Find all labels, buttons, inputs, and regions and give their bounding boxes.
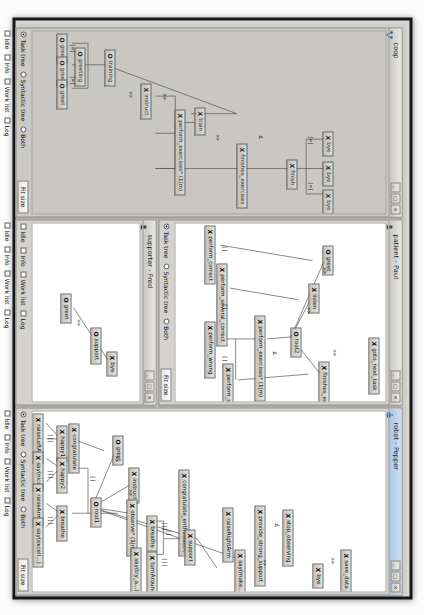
titlebar-supporter-fred[interactable]: supporter - Fred _ □ × — [142, 220, 155, 404]
tree-node[interactable]: O greet — [60, 293, 71, 323]
radio-syntactic-tree[interactable]: Syntactic tree — [163, 263, 170, 313]
radio-task-tree[interactable]: Task tree — [163, 223, 170, 258]
radio-both[interactable]: Both — [163, 318, 170, 340]
tree-node[interactable]: X say(try_a...) — [130, 547, 141, 592]
minimize-button[interactable]: _ — [144, 370, 154, 380]
checkbox-idle[interactable]: Idle — [4, 410, 11, 429]
tree-node[interactable]: X finishes_exercises — [236, 143, 247, 208]
close-button[interactable]: × — [144, 392, 154, 402]
tree-node[interactable]: X perform_exercises* (1|m) — [174, 109, 185, 195]
tree-node[interactable]: X turnAround — [146, 551, 157, 592]
radio-both[interactable]: Both — [20, 506, 27, 528]
tree-node[interactable]: X congratulate — [68, 423, 79, 473]
checkbox-info[interactable]: Info — [4, 54, 11, 73]
titlebar-robot-pepper[interactable]: robot - Pepper _ □ × — [388, 408, 401, 594]
tree-node[interactable]: X perform_wrong — [204, 321, 215, 378]
tree-node[interactable]: X perform_several_d... — [222, 363, 233, 402]
maximize-button[interactable]: □ — [390, 571, 400, 581]
radio-syntactic-tree[interactable]: Syntactic tree — [20, 71, 27, 121]
panel-bottom-bar-patient-paul[interactable]: Task tree Syntactic tree Both Fit size — [159, 220, 173, 404]
tree-node[interactable]: O root2 — [290, 327, 301, 357]
checkbox-idle[interactable]: Idle — [4, 222, 11, 241]
panel-supporter-fred[interactable]: supporter - Fred _ □ × O — [15, 219, 156, 405]
window-controls[interactable]: _ □ × — [390, 370, 400, 402]
checkbox-work-list[interactable]: Work list — [4, 78, 11, 112]
checkbox-log[interactable]: Log — [20, 310, 27, 329]
window-controls[interactable]: _ □ × — [144, 370, 154, 402]
minimize-button[interactable]: _ — [390, 370, 400, 380]
fit-size-button[interactable]: Fit size — [18, 558, 29, 591]
checkbox-log[interactable]: Log — [4, 497, 11, 516]
tree-node[interactable]: X train — [194, 107, 205, 135]
tree-node[interactable]: X bye — [322, 189, 333, 214]
tree-node[interactable]: X happy1 — [56, 425, 67, 461]
tree-node[interactable]: X bye — [106, 351, 117, 376]
checkbox-idle[interactable]: Idle — [20, 223, 27, 242]
radio-both[interactable]: Both — [20, 126, 27, 148]
tree-canvas-robot-pepper[interactable]: O root1 O greet X instruct X observe* (1… — [31, 410, 386, 592]
close-button[interactable]: × — [390, 582, 400, 592]
global-bottom-bar-left[interactable]: Idle Info Work list Log — [0, 27, 14, 217]
maximize-button[interactable]: □ — [390, 381, 400, 391]
global-bottom-bar-right[interactable]: Idle Info Work list Log — [0, 407, 14, 595]
global-bottom-bar-mid[interactable]: Idle Info Work list Log — [0, 219, 14, 405]
close-button[interactable]: × — [390, 392, 400, 402]
titlebar-coop[interactable]: coop _ □ × — [388, 28, 401, 216]
minimize-button[interactable]: _ — [390, 560, 400, 570]
tree-node[interactable]: O root1 — [90, 497, 101, 527]
tree-node[interactable]: X raiseRightArm — [222, 507, 233, 562]
tree-node[interactable]: X finish — [286, 159, 297, 189]
radio-task-tree[interactable]: Task tree — [20, 411, 27, 446]
close-button[interactable]: × — [390, 204, 400, 214]
radio-syntactic-tree[interactable]: Syntactic tree — [20, 451, 27, 501]
fit-size-button[interactable]: Fit size — [161, 368, 172, 401]
tree-node[interactable]: X breathe — [56, 505, 67, 541]
tree-node[interactable]: X breathe — [146, 515, 157, 551]
checkbox-info[interactable]: Info — [4, 246, 11, 265]
tree-node[interactable]: X bye — [322, 161, 333, 186]
tree-node[interactable]: X goto_next_task — [368, 337, 379, 394]
titlebar-patient-paul[interactable]: patient - Paul _ □ × — [388, 220, 401, 404]
tree-node[interactable]: X stop_observing — [282, 509, 293, 566]
tree-canvas-coop[interactable]: O training O greeting X train X finish O… — [31, 30, 386, 214]
fit-size-button[interactable]: Fit size — [18, 180, 29, 213]
checkbox-info[interactable]: Info — [20, 247, 27, 266]
panel-patient-paul[interactable]: patient - Paul _ □ × — [158, 219, 402, 405]
tree-node[interactable]: X support — [184, 529, 195, 565]
tree-node[interactable]: X instruct — [128, 467, 139, 503]
tree-canvas-supporter-fred[interactable]: O support O greet X bye >> — [31, 222, 140, 402]
tree-node[interactable]: O greet — [56, 79, 67, 109]
checkbox-log[interactable]: Log — [4, 117, 11, 136]
maximize-button[interactable]: □ — [390, 193, 400, 203]
maximize-button[interactable]: □ — [144, 381, 154, 391]
tree-node[interactable]: X bye — [322, 131, 333, 156]
minimize-button[interactable]: _ — [390, 182, 400, 192]
tree-node[interactable]: X instruct — [140, 83, 151, 119]
tree-canvas-patient-paul[interactable]: O root2 O greet X listen X perform_exerc… — [174, 222, 386, 402]
tree-node[interactable]: X say(excell...) — [32, 517, 43, 567]
panel-bottom-bar-coop[interactable]: Task tree Syntactic tree Both Fit size — [16, 28, 30, 216]
checkbox-idle[interactable]: Idle — [4, 30, 11, 49]
radio-task-tree[interactable]: Task tree — [20, 31, 27, 66]
window-controls[interactable]: _ □ × — [390, 182, 400, 214]
tree-node[interactable]: X bye — [312, 563, 323, 588]
panel-coop[interactable]: coop _ □ × — [15, 27, 402, 217]
tree-node[interactable]: O training — [104, 49, 115, 86]
window-controls[interactable]: _ □ × — [390, 560, 400, 592]
tree-node[interactable]: O support — [90, 327, 101, 364]
tree-node[interactable]: X happy2 — [56, 457, 67, 493]
checkbox-work-list[interactable]: Work list — [4, 458, 11, 492]
panel-robot-pepper[interactable]: robot - Pepper _ □ × — [15, 407, 402, 595]
tree-node[interactable]: X finishes_exercises — [318, 361, 329, 402]
tree-node[interactable]: X say(make...) — [234, 549, 245, 592]
tree-node[interactable]: X provide_strong_support — [254, 505, 265, 586]
checkbox-work-list[interactable]: Work list — [20, 271, 27, 305]
tree-node[interactable]: X perform_correct — [204, 225, 215, 284]
tree-node[interactable]: X perform_exercises* (1|m) — [254, 315, 265, 401]
panel-bottom-bar-supporter-fred[interactable]: Idle Info Work list Log — [16, 220, 30, 404]
checkbox-info[interactable]: Info — [4, 434, 11, 453]
panel-bottom-bar-robot-pepper[interactable]: Task tree Syntactic tree Both Fit size — [16, 408, 30, 594]
checkbox-work-list[interactable]: Work list — [4, 270, 11, 304]
checkbox-log[interactable]: Log — [4, 309, 11, 328]
tree-node[interactable]: O greeting — [74, 47, 85, 86]
